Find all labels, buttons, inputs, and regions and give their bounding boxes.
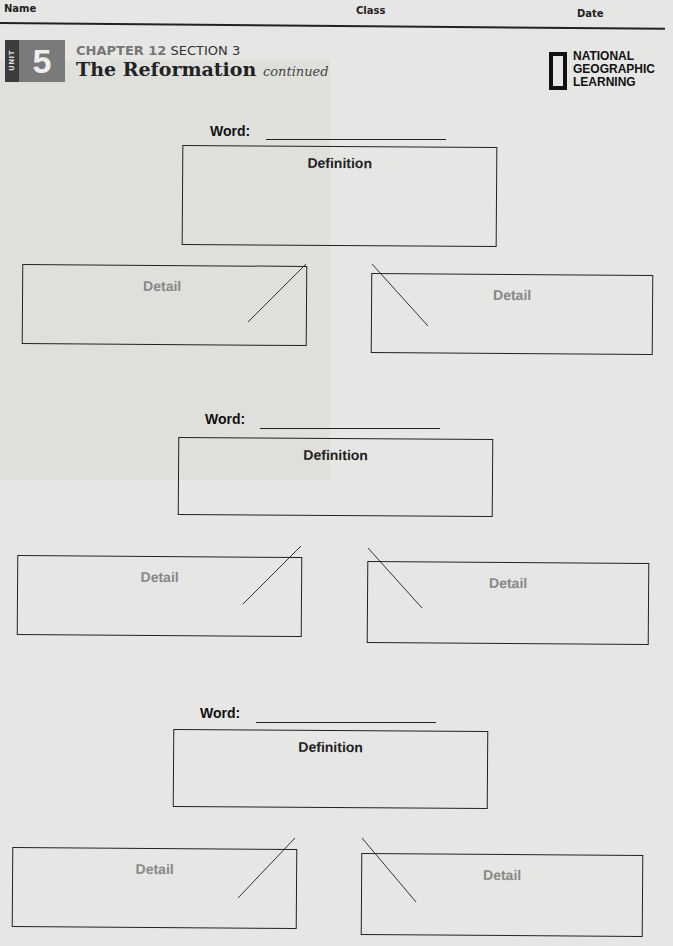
national-geographic-logo: NATIONAL GEOGRAPHIC LEARNING [549,50,655,90]
logo-line-3: LEARNING [573,76,655,89]
detail-box-left[interactable]: Detail [22,264,308,346]
page-title: The Reformation continued [76,58,329,80]
detail-label: Detail [372,286,652,304]
unit-badge: UNIT 5 [5,40,65,82]
detail-label: Detail [13,860,296,878]
yellow-border-icon [549,52,567,90]
definition-box[interactable]: Definition [182,145,498,247]
class-label: Class [356,5,385,16]
definition-label: Definition [179,446,492,464]
chapter-heading: CHAPTER 12 SECTION 3 [76,43,240,58]
date-label: Date [577,8,604,19]
detail-label: Detail [23,277,306,295]
name-line[interactable] [0,22,665,29]
unit-label: UNIT [5,40,19,82]
definition-box[interactable]: Definition [178,437,494,517]
word-label: Word: [200,705,240,721]
detail-box-right[interactable]: Detail [361,853,644,937]
word-input-line[interactable] [260,428,440,429]
detail-label: Detail [18,568,301,586]
detail-box-left[interactable]: Detail [12,847,298,929]
detail-box-right[interactable]: Detail [367,561,650,645]
unit-number: 5 [19,40,65,82]
word-input-line[interactable] [266,139,446,140]
detail-box-right[interactable]: Detail [371,273,654,355]
detail-box-left[interactable]: Detail [17,555,303,637]
word-label: Word: [205,411,245,427]
definition-box[interactable]: Definition [173,729,489,809]
definition-label: Definition [183,154,496,172]
name-label: Name [4,3,36,14]
detail-label: Detail [368,574,648,592]
continued-text: continued [263,64,329,79]
definition-label: Definition [174,738,487,756]
word-input-line[interactable] [256,722,436,723]
title-text: The Reformation [76,58,256,80]
detail-label: Detail [362,866,642,884]
section-number: SECTION 3 [171,43,241,58]
word-label: Word: [210,123,250,139]
chapter-number: CHAPTER 12 [76,43,166,58]
